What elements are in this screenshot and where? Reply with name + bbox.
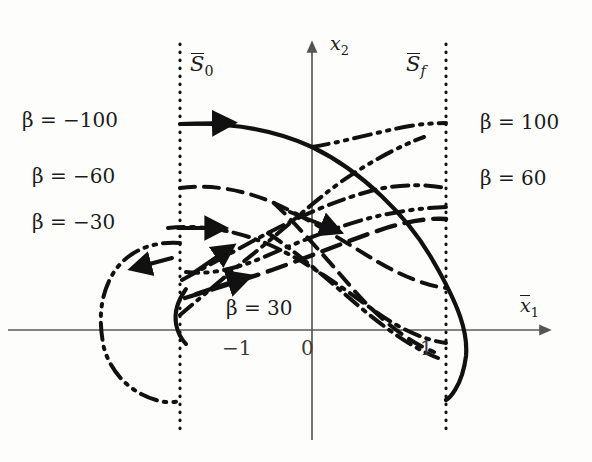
curve-beta-minus-100-arrow [142,258,172,266]
guide-label-sf-base: S [406,54,420,75]
guide-label-sf-sub: f [420,63,425,79]
x-tick-label-1: 1 [420,338,433,358]
beta-label-minus-60: β = −60 [32,166,115,186]
guide-label-sf: Sf [406,54,426,78]
guide-lines-group [180,44,446,436]
x-axis-label-sub: 1 [531,305,539,320]
beta-label-60: β = 60 [480,168,546,188]
guide-label-s0: S0 [190,54,213,78]
figure-container: x1 x2 −1 0 1 S0 Sf β = −100 β = −60 β = … [0,0,592,462]
y-axis-label-base: x [330,32,341,54]
curve-beta-minus-100-upper [186,207,446,273]
x-tick-label-minus-1: −1 [222,338,251,358]
curve-beta-100 [312,123,446,147]
beta-label-minus-100: β = −100 [22,110,118,130]
curve-beta-minus-30 [168,227,446,343]
y-axis-label-sub: 2 [341,43,349,58]
guide-label-s0-sub: 0 [204,63,213,79]
x-axis-label-base: x [520,296,531,315]
beta-label-100: β = 100 [480,112,559,132]
y-axis-label: x2 [330,34,349,58]
beta-label-minus-30: β = −30 [32,212,115,232]
trajectories-group [101,123,466,402]
x-axis-label: x1 [520,296,539,320]
x-tick-label-0: 0 [301,338,314,358]
beta-label-30: β = 30 [226,298,292,318]
curve-solid-boundary-arrow [182,123,222,124]
guide-label-s0-base: S [190,54,204,75]
